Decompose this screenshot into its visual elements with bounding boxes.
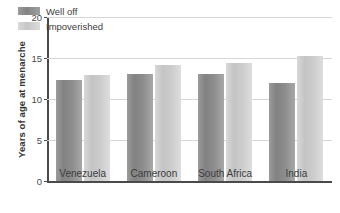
legend-item-impoverished: Impoverished <box>18 20 103 32</box>
x-axis-label-venezuela: Venezuela <box>59 168 106 179</box>
bar-venezuela-well-off <box>56 80 82 181</box>
y-axis-tick-mark <box>44 140 48 141</box>
bar-cameroon-well-off <box>127 74 153 181</box>
bar-india-well-off <box>269 83 295 181</box>
x-axis-label-south-africa: South Africa <box>198 168 252 179</box>
legend-label: Impoverished <box>46 21 103 32</box>
plot-area: 05101520 <box>47 17 332 181</box>
y-axis-tick-mark <box>44 99 48 100</box>
x-axis-line <box>47 181 332 183</box>
x-axis-label-cameroon: Cameroon <box>131 168 178 179</box>
bar-south-africa-impoverished <box>226 63 252 181</box>
legend-swatch-icon <box>18 7 40 15</box>
y-axis-tick-mark <box>44 58 48 59</box>
bar-venezuela-impoverished <box>84 75 110 181</box>
legend: Well offImpoverished <box>18 5 103 35</box>
y-axis-tick-label: 0 <box>37 176 42 187</box>
legend-swatch-icon <box>18 22 40 30</box>
y-axis-tick-label: 15 <box>31 53 42 64</box>
bar-india-impoverished <box>297 56 323 181</box>
bar-cameroon-impoverished <box>155 65 181 181</box>
y-axis-tick-label: 5 <box>37 135 42 146</box>
legend-item-well-off: Well off <box>18 5 103 17</box>
y-axis-tick-mark <box>44 181 48 182</box>
bar-chart-figure: Years of age at menarche 05101520 Venezu… <box>0 0 340 213</box>
bar-south-africa-well-off <box>198 74 224 181</box>
gridline <box>47 58 332 59</box>
legend-label: Well off <box>46 6 77 17</box>
y-axis-tick-label: 10 <box>31 94 42 105</box>
x-axis-label-india: India <box>286 168 308 179</box>
y-axis-title: Years of age at menarche <box>16 20 27 180</box>
